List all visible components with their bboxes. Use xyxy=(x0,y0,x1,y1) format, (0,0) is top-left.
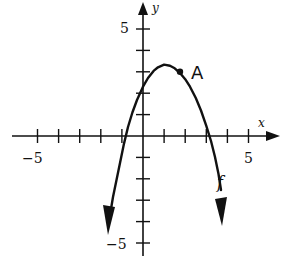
coordinate-plane: −5 5 5 −5 x y A f xyxy=(0,0,282,263)
y-axis-label: y xyxy=(151,1,159,15)
x-min-label: −5 xyxy=(22,150,43,166)
y-axis-arrow-icon xyxy=(138,2,148,15)
curve-left-arrow-icon xyxy=(103,205,115,235)
point-a-label: A xyxy=(191,62,204,83)
function-curve xyxy=(110,65,221,215)
x-max-label: 5 xyxy=(244,150,253,166)
point-a-marker xyxy=(177,69,183,75)
x-axis-arrow-icon xyxy=(266,131,280,141)
graph-figure: −5 5 5 −5 x y A f xyxy=(0,0,282,263)
x-axis-label: x xyxy=(258,116,265,130)
y-min-label: −5 xyxy=(106,236,127,252)
y-max-label: 5 xyxy=(120,20,129,36)
curve-right-arrow-icon xyxy=(215,197,227,226)
function-label: f xyxy=(216,173,226,192)
axes xyxy=(12,10,268,256)
